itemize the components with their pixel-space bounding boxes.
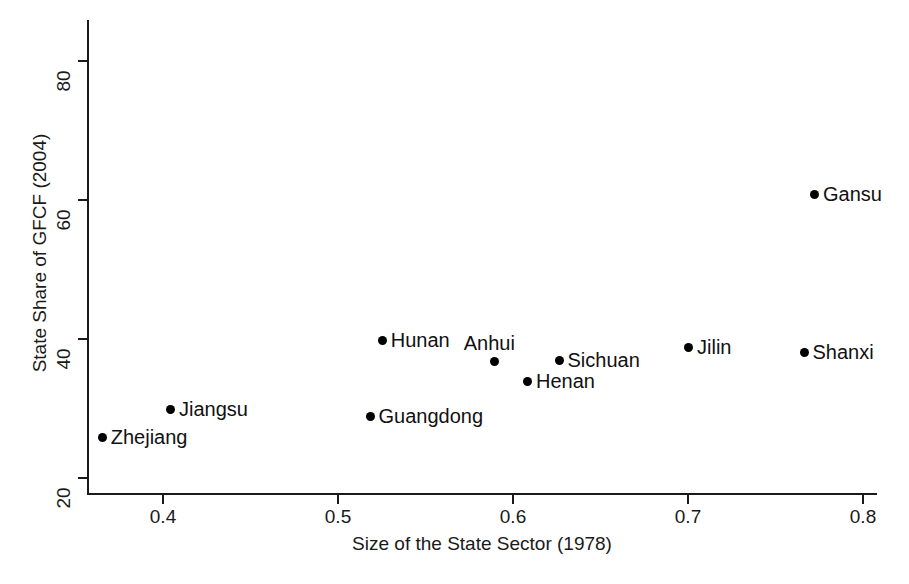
x-tick-0.6	[512, 495, 514, 504]
point-label-jiangsu: Jiangsu	[179, 399, 248, 419]
x-tick-0.7	[687, 495, 689, 504]
marker-dot-icon	[555, 356, 564, 365]
point-label-jilin: Jilin	[697, 337, 731, 357]
marker-dot-icon	[684, 343, 693, 352]
y-tick-60	[78, 199, 87, 201]
point-label-gansu: Gansu	[823, 184, 882, 204]
x-tick-0.5	[337, 495, 339, 504]
marker-dot-icon	[490, 357, 499, 366]
y-tick-80	[78, 60, 87, 62]
data-points-layer: ZhejiangJiangsuGuangdongHunanAnhuiHenanS…	[88, 20, 878, 494]
x-ticklabel-0.7: 0.7	[658, 506, 718, 528]
y-ticklabel-40: 40	[53, 339, 75, 379]
marker-dot-icon	[378, 336, 387, 345]
marker-dot-icon	[810, 190, 819, 199]
y-axis-title: State Share of GFCF (2004)	[29, 103, 51, 403]
x-tick-0.4	[162, 495, 164, 504]
x-tick-0.8	[862, 495, 864, 504]
point-label-hunan: Hunan	[391, 330, 450, 350]
x-ticklabel-0.8: 0.8	[833, 506, 893, 528]
x-ticklabel-0.4: 0.4	[133, 506, 193, 528]
point-label-sichuan: Sichuan	[568, 350, 640, 370]
marker-dot-icon	[166, 405, 175, 414]
y-tick-20	[78, 477, 87, 479]
marker-dot-icon	[366, 412, 375, 421]
x-ticklabel-0.5: 0.5	[308, 506, 368, 528]
y-tick-40	[78, 338, 87, 340]
x-ticklabel-0.6: 0.6	[483, 506, 543, 528]
marker-dot-icon	[800, 348, 809, 357]
marker-dot-icon	[523, 377, 532, 386]
point-label-anhui: Anhui	[464, 333, 515, 353]
point-label-shanxi: Shanxi	[813, 342, 874, 362]
scatter-plot-figure: State Share of GFCF (2004) Size of the S…	[0, 0, 909, 584]
x-axis-title: Size of the State Sector (1978)	[87, 533, 877, 555]
marker-dot-icon	[98, 433, 107, 442]
point-label-zhejiang: Zhejiang	[111, 427, 188, 447]
point-label-guangdong: Guangdong	[379, 406, 484, 426]
y-ticklabel-80: 80	[53, 61, 75, 101]
y-ticklabel-60: 60	[53, 200, 75, 240]
y-ticklabel-20: 20	[53, 478, 75, 518]
point-label-henan: Henan	[536, 371, 595, 391]
